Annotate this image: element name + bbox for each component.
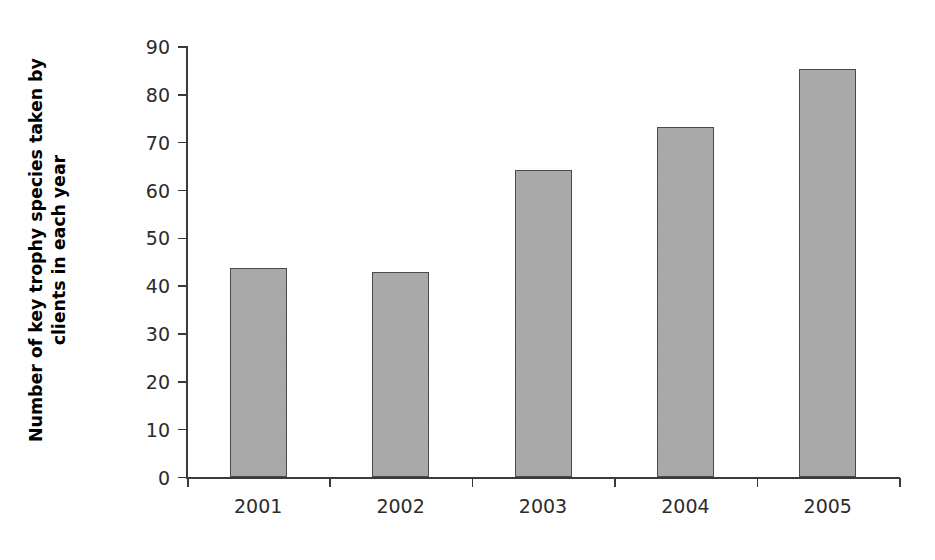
y-axis-title-line-2: clients in each year bbox=[48, 58, 71, 442]
y-tick-label-text: 40 bbox=[146, 275, 170, 297]
y-tick-label: 90 bbox=[108, 36, 170, 58]
x-tick-label-2002: 2002 bbox=[346, 495, 456, 517]
x-tick-mark bbox=[329, 478, 331, 487]
x-tick-mark bbox=[472, 478, 474, 487]
y-tick-mark bbox=[178, 333, 186, 335]
y-tick-mark bbox=[178, 238, 186, 240]
x-tick-mark bbox=[614, 478, 616, 487]
y-tick-label: 10 bbox=[108, 419, 170, 441]
y-tick-label: 70 bbox=[108, 132, 170, 154]
y-axis-title: Number of key trophy species taken by cl… bbox=[0, 0, 96, 500]
y-axis-line bbox=[186, 46, 188, 479]
y-tick-label: 0 bbox=[108, 467, 170, 489]
y-tick-label: 50 bbox=[108, 227, 170, 249]
y-tick-label: 40 bbox=[108, 275, 170, 297]
y-tick-mark bbox=[178, 94, 186, 96]
y-axis-title-line-1: Number of key trophy species taken by bbox=[26, 58, 46, 442]
bar-2001 bbox=[230, 268, 287, 477]
y-tick-label-text: 60 bbox=[146, 180, 170, 202]
x-tick-label-2004: 2004 bbox=[630, 495, 740, 517]
y-tick-label: 30 bbox=[108, 323, 170, 345]
y-tick-label-text: 20 bbox=[146, 371, 170, 393]
y-tick-mark bbox=[178, 142, 186, 144]
y-tick-mark bbox=[178, 429, 186, 431]
y-tick-mark bbox=[178, 477, 186, 479]
y-tick-label-text: 80 bbox=[146, 84, 170, 106]
y-tick-label-text: 50 bbox=[146, 227, 170, 249]
y-tick-mark bbox=[178, 285, 186, 287]
y-tick-mark bbox=[178, 190, 186, 192]
y-tick-label-text: 90 bbox=[146, 36, 170, 58]
y-tick-label-text: 0 bbox=[158, 467, 170, 489]
x-tick-label-2001: 2001 bbox=[203, 495, 313, 517]
y-tick-mark bbox=[178, 381, 186, 383]
x-tick-mark bbox=[899, 478, 901, 487]
y-tick-label-text: 30 bbox=[146, 323, 170, 345]
bar-2005 bbox=[799, 69, 856, 478]
y-tick-label-text: 70 bbox=[146, 132, 170, 154]
x-tick-mark-origin bbox=[187, 478, 189, 487]
y-tick-mark bbox=[178, 46, 186, 48]
x-tick-mark bbox=[757, 478, 759, 487]
bar-chart-figure: Number of key trophy species taken by cl… bbox=[0, 0, 935, 560]
x-tick-label-2003: 2003 bbox=[488, 495, 598, 517]
bar-2004 bbox=[657, 127, 714, 478]
y-tick-label-text: 10 bbox=[146, 419, 170, 441]
y-tick-label: 20 bbox=[108, 371, 170, 393]
y-tick-label: 80 bbox=[108, 84, 170, 106]
bar-2002 bbox=[372, 272, 429, 478]
x-tick-label-2005: 2005 bbox=[773, 495, 883, 517]
bar-2003 bbox=[515, 170, 572, 478]
y-tick-label: 60 bbox=[108, 180, 170, 202]
